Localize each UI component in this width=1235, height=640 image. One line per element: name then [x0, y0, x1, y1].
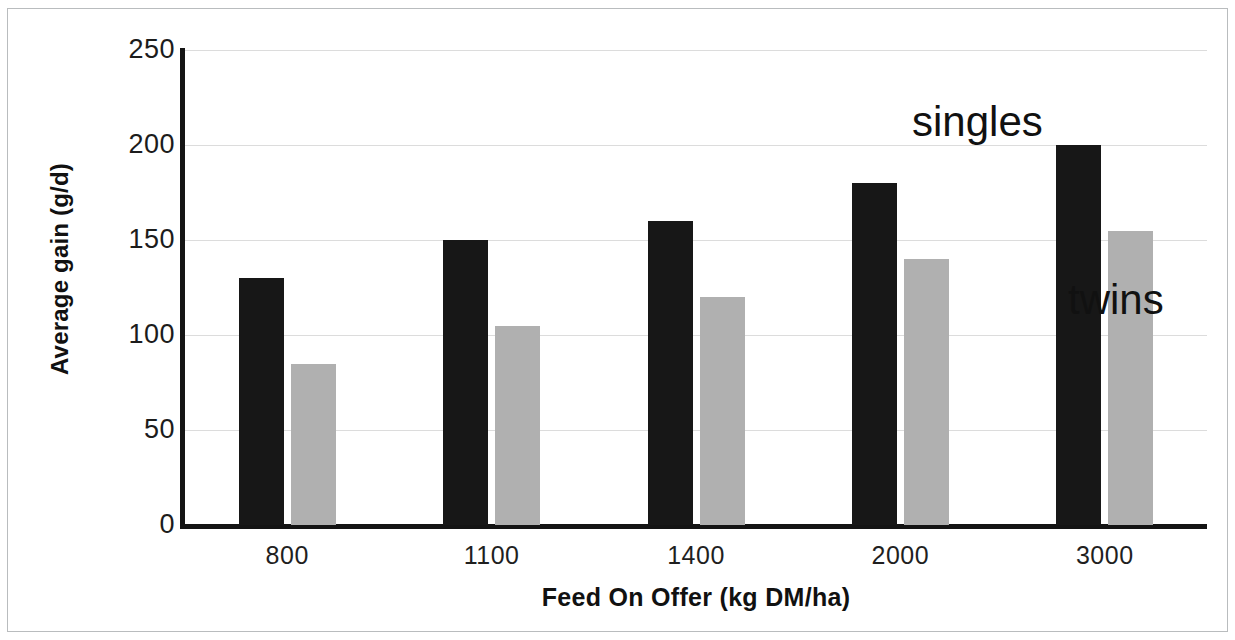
gridline: [185, 240, 1207, 241]
bar-twins-1400: [700, 297, 745, 525]
bar-twins-3000: [1108, 231, 1153, 526]
y-tick-label: 250: [85, 36, 175, 63]
y-tick-label: 100: [85, 321, 175, 348]
y-axis-title: Average gain (g/d): [46, 89, 74, 449]
y-tick-label: 50: [85, 416, 175, 443]
x-tick-label: 2000: [798, 543, 1002, 568]
y-tick-label: 0: [85, 511, 175, 538]
x-tick-label: 3000: [1003, 543, 1207, 568]
x-axis-title: Feed On Offer (kg DM/ha): [185, 583, 1207, 612]
x-tick-label: 800: [185, 543, 389, 568]
bar-singles-800: [239, 278, 284, 525]
y-tick-label: 150: [85, 226, 175, 253]
y-axis-line: [180, 48, 185, 527]
y-tick-label: 200: [85, 131, 175, 158]
bar-singles-1100: [443, 240, 488, 525]
bar-twins-2000: [904, 259, 949, 525]
plot-area: 050100150200250 8001100140020003000 Aver…: [0, 0, 1235, 640]
x-tick-label: 1400: [594, 543, 798, 568]
bar-chart-figure: 050100150200250 8001100140020003000 Aver…: [0, 0, 1235, 640]
gridline: [185, 145, 1207, 146]
gridline: [185, 430, 1207, 431]
bar-twins-800: [291, 364, 336, 526]
annotation-twins: twins: [1068, 279, 1164, 321]
bar-twins-1100: [495, 326, 540, 526]
bar-singles-2000: [852, 183, 897, 525]
bar-singles-1400: [648, 221, 693, 525]
gridline: [185, 335, 1207, 336]
bar-singles-3000: [1056, 145, 1101, 525]
x-tick-label: 1100: [389, 543, 593, 568]
gridline: [185, 50, 1207, 51]
annotation-singles: singles: [912, 101, 1043, 143]
